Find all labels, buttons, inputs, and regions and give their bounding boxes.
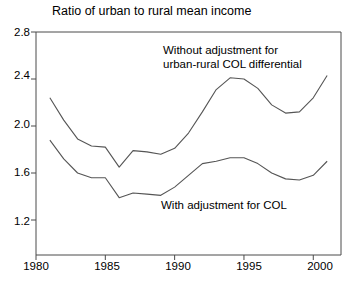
data-series-group	[50, 75, 327, 197]
series-annotation-with-adjustment: With adjustment for COL	[161, 199, 287, 213]
x-tick-label-2000: 2000	[300, 260, 340, 272]
series-annotation-without-adjustment: Without adjustment for urban-rural COL d…	[163, 44, 302, 71]
chart-figure: Ratio of urban to rural mean income 2.8 …	[0, 0, 358, 292]
x-tick-label-1980: 1980	[16, 260, 56, 272]
x-tick-label-1985: 1985	[87, 260, 127, 272]
y-tick-label-2-4: 2.4	[2, 69, 30, 81]
y-tick-label-1-6: 1.6	[2, 166, 30, 178]
y-tick-label-1-2: 1.2	[2, 215, 30, 227]
series-line-without-adjustment	[50, 75, 327, 167]
series-line-with-adjustment	[50, 140, 327, 198]
x-tick-label-1995: 1995	[229, 260, 269, 272]
y-tick-label-2-0: 2.0	[2, 118, 30, 130]
y-tick-label-2-8: 2.8	[2, 26, 30, 38]
y-axis-ticks	[31, 32, 36, 220]
x-tick-label-1990: 1990	[158, 260, 198, 272]
